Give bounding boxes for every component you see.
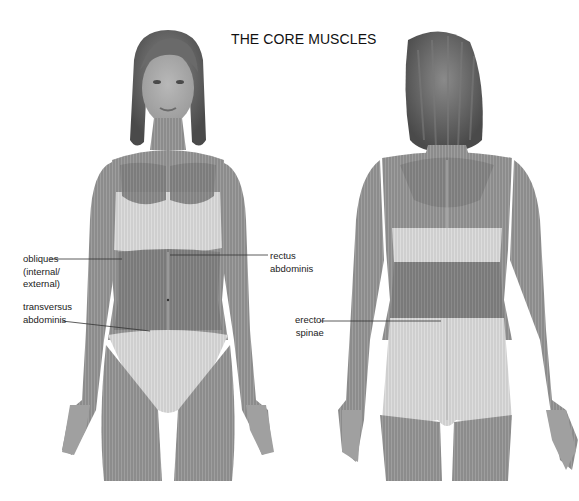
diagram-title: THE CORE MUSCLES bbox=[231, 31, 377, 47]
back-left-leg bbox=[380, 415, 442, 481]
label-transversus-abdominis: transversus abdominis bbox=[23, 301, 72, 326]
label-erector-spinae: erector spinae bbox=[295, 314, 325, 339]
core-muscles-diagram: THE CORE MUSCLES obliques (internal/ ext… bbox=[0, 0, 579, 501]
back-bra-highlight bbox=[392, 228, 502, 262]
back-figure bbox=[338, 31, 578, 481]
back-erector-spinae bbox=[390, 262, 504, 320]
front-chest-highlight bbox=[114, 192, 222, 254]
front-figure bbox=[62, 30, 274, 481]
label-obliques: obliques (internal/ external) bbox=[23, 253, 60, 291]
front-face bbox=[142, 52, 194, 124]
back-right-leg bbox=[452, 415, 512, 481]
label-rectus-abdominis: rectus abdominis bbox=[270, 250, 313, 275]
